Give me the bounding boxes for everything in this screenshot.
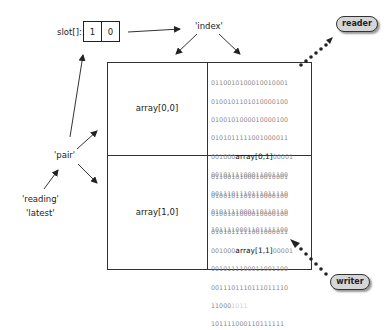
arrow-slot-to-index <box>128 29 180 32</box>
bits-line: 101111000110111111 <box>211 319 293 328</box>
arrow-index-to-col0 <box>176 34 197 54</box>
arrow-pair-to-row0 <box>77 131 97 149</box>
arrow-pair-to-slot <box>70 55 83 137</box>
writer-arrow <box>290 239 328 276</box>
arrow-pair-to-row1 <box>78 164 97 183</box>
reader-arrow <box>299 37 333 67</box>
arrow-index-to-col1 <box>219 34 240 54</box>
arrow-reading-to-pair <box>44 170 58 189</box>
